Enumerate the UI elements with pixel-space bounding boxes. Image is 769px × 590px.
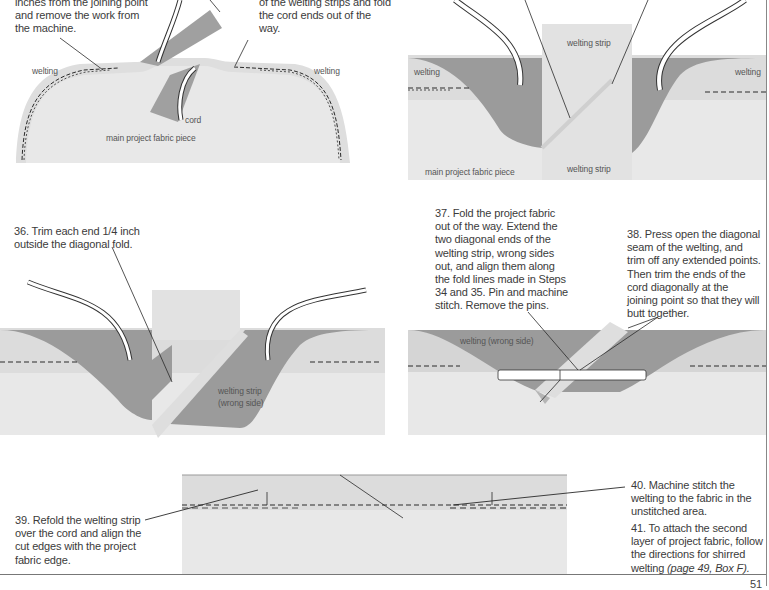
label-welting-right-p1: welting [314, 66, 340, 76]
label-welting-right-p2: welting [735, 67, 761, 77]
caption-line: out of the way. Extend the [435, 220, 568, 233]
label-welting-strip-p3: welting strip [218, 386, 262, 396]
caption-step-41: 41. To attach the second layer of projec… [631, 522, 763, 575]
caption-line: stitch. Remove the pins. [435, 299, 568, 312]
bottom-divider [0, 574, 767, 575]
caption-line: 34 and 35. Pin and machine [435, 286, 568, 299]
caption-line: inches from the joining point [15, 0, 148, 9]
caption-line: the machine. [15, 22, 148, 35]
caption-line: unstitched area. [631, 505, 752, 518]
label-welting-strip-bottom: welting strip [567, 164, 611, 174]
caption-line: 38. Press open the diagonal [627, 228, 761, 241]
caption-line: butt together. [627, 307, 761, 320]
caption-line: 37. Fold the project fabric [435, 207, 568, 220]
caption-step-39: 39. Refold the welting strip over the co… [15, 514, 141, 567]
label-main-fabric-p1: main project fabric piece [106, 133, 196, 143]
caption-line: two diagonal ends of the [435, 233, 568, 246]
label-main-fabric-p2: main project fabric piece [425, 167, 515, 177]
label-welting-strip-top: welting strip [567, 38, 611, 48]
illustration-step-39-41-stitch [145, 475, 625, 574]
page-reference: (page 49, Box F). [667, 562, 749, 574]
caption-step-34-tail: of the welting strips and fold the cord … [259, 0, 391, 36]
label-wrong-side-p3: (wrong side) [218, 398, 264, 408]
caption-line: way. [259, 22, 391, 35]
caption-line: 39. Refold the welting strip [15, 514, 141, 527]
caption-line: layer of project fabric, follow [631, 535, 763, 548]
caption-line: the fold lines made in Steps [435, 273, 568, 286]
caption-line: 36. Trim each end 1/4 inch [14, 225, 140, 238]
page-number: 51 [750, 578, 762, 590]
label-welting-wrong-side-p4: welting (wrong side) [460, 336, 534, 346]
caption-line: Then trim the ends of the [627, 268, 761, 281]
caption-line: of the welting strips and fold [259, 0, 391, 9]
caption-line: over the cord and align the [15, 527, 141, 540]
caption-line: 41. To attach the second [631, 522, 763, 535]
caption-step-40: 40. Machine stitch the welting to the fa… [631, 479, 752, 519]
caption-line: cord diagonally at the [627, 281, 761, 294]
caption-line: outside the diagonal fold. [14, 238, 140, 251]
caption-line: welting strip, wrong sides [435, 247, 568, 260]
caption-line: the cord ends out of the [259, 9, 391, 22]
caption-line: fabric edge. [15, 554, 141, 567]
caption-line: joining point so that they will [627, 294, 761, 307]
caption-line: cut edges with the project [15, 540, 141, 553]
caption-step-37: 37. Fold the project fabric out of the w… [435, 207, 568, 313]
caption-step-33-tail: inches from the joining point and remove… [15, 0, 148, 36]
caption-line: welting to the fabric in the [631, 492, 752, 505]
illustration-step-35-welting-strips [408, 0, 767, 180]
caption-line: out, and align them along [435, 260, 568, 273]
illustration-step-37-38-seam [408, 312, 767, 435]
caption-line: seam of the welting, and [627, 241, 761, 254]
right-page-border [766, 0, 767, 586]
caption-step-38: 38. Press open the diagonal seam of the … [627, 228, 761, 320]
caption-line: the directions for shirred [631, 548, 763, 561]
illustration-step-36-trim [0, 247, 385, 438]
caption-line: welting (page 49, Box F). [631, 562, 763, 575]
label-welting-left-p1: welting [32, 66, 58, 76]
caption-text: welting [631, 562, 667, 574]
caption-line: and remove the work from [15, 9, 148, 22]
label-welting-left-p2: welting [414, 67, 440, 77]
caption-line: trim off any extended points. [627, 254, 761, 267]
label-cord-p1: cord [185, 115, 201, 125]
caption-line: 40. Machine stitch the [631, 479, 752, 492]
caption-step-36: 36. Trim each end 1/4 inch outside the d… [14, 225, 140, 251]
